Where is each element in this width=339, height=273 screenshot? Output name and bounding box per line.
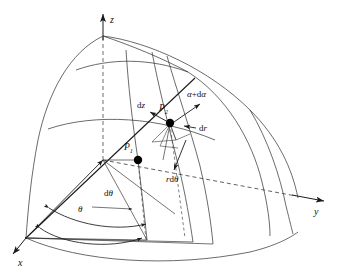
alpha-dalpha-vector-arrow xyxy=(174,104,200,122)
point-p1 xyxy=(134,156,142,164)
x-axis xyxy=(13,238,26,254)
y-axis xyxy=(103,160,324,201)
left-meridian-edge xyxy=(26,36,103,238)
cylindrical-coordinate-diagram: z x y xyxy=(0,0,339,273)
point-p2 xyxy=(166,119,174,127)
bottom-base-arc xyxy=(26,232,298,261)
theta-arc xyxy=(40,228,142,244)
element-wall-right-outer xyxy=(167,56,213,244)
theta-leader-line xyxy=(92,207,132,209)
p2-marker xyxy=(166,119,174,127)
top-ridge-arc xyxy=(103,36,188,72)
dr-vector-label: dr xyxy=(199,123,208,133)
y-axis-label: y xyxy=(313,206,319,217)
x-axis-shaft xyxy=(13,238,26,254)
axis-foot-to-base-left xyxy=(103,160,147,240)
dz-vector-label: dz xyxy=(137,100,146,110)
p1-marker xyxy=(134,156,142,164)
figure-container: z x y xyxy=(0,0,339,273)
element-wall-right xyxy=(152,52,193,242)
mid-latitude-arc xyxy=(48,119,215,140)
z-axis-label: z xyxy=(109,14,114,25)
p2-drop-solid xyxy=(163,124,170,160)
rdtheta-vector-label: rdθ xyxy=(166,174,179,184)
theta-angle-label: θ xyxy=(78,204,83,214)
radial-line-to-axis-foot xyxy=(26,160,103,238)
p1-label: P1 xyxy=(123,142,133,154)
radius-line-to-p1 xyxy=(26,78,195,238)
dr-vector-arrow xyxy=(184,126,196,128)
dtheta-arc xyxy=(49,208,146,227)
dtheta-angle-label: dθ xyxy=(104,188,114,198)
x-axis-label: x xyxy=(17,257,23,268)
outer-right-boundary-2 xyxy=(250,110,293,234)
spherical-wedge-surface xyxy=(26,36,298,261)
alpha-dalpha-vector-label: α+dα xyxy=(187,89,206,99)
radial-construction-lines xyxy=(26,78,213,244)
p1-vertical-drop xyxy=(138,160,146,240)
y-axis-shaft xyxy=(292,195,324,201)
